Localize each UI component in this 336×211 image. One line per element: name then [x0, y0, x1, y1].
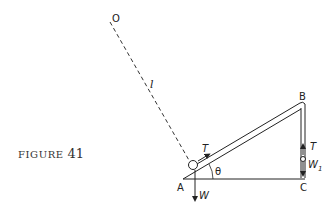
label-l: l [150, 78, 154, 91]
label-w: W [199, 190, 210, 201]
label-w1-subscript: 1 [318, 165, 322, 173]
incline-ab [183, 109, 301, 179]
label-o: O [112, 13, 120, 24]
ring-circle [189, 161, 198, 170]
label-b: B [299, 91, 306, 102]
hanging-weight-circle [301, 157, 306, 162]
tube-incline-outer [197, 103, 300, 164]
label-t-ring: T [202, 143, 209, 154]
pendulum-tube-diagram: O l A B C θ T T W W1 [0, 0, 336, 211]
label-t-vertical: T [310, 141, 317, 152]
label-c: C [300, 182, 307, 193]
label-w1: W1 [308, 159, 322, 173]
string-dashed-line [110, 22, 190, 162]
label-a: A [177, 182, 184, 193]
label-theta: θ [215, 166, 221, 177]
theta-angle-arc [209, 164, 213, 179]
